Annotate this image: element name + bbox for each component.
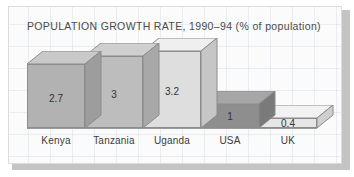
- bar-side-outline: [143, 43, 161, 134]
- bar-side-outline: [201, 38, 219, 134]
- chart-figure: POPULATION GROWTH RATE, 1990–94 (% of po…: [0, 0, 354, 177]
- bar-front-face: 2.7: [27, 64, 85, 128]
- plot-area: 2.7Kenya3Tanzania3.2Uganda1USA0.4UK: [9, 7, 342, 164]
- bar-value-label: 1: [227, 111, 233, 122]
- bar-value-label: 0.4: [281, 118, 295, 129]
- bar-side-outline: [259, 91, 277, 134]
- bar-value-label: 2.7: [49, 93, 63, 104]
- chart-panel: POPULATION GROWTH RATE, 1990–94 (% of po…: [8, 6, 342, 164]
- category-label-tanzania: Tanzania: [85, 135, 143, 146]
- bar-side-outline: [85, 51, 103, 134]
- bar-kenya: 2.7: [27, 51, 101, 128]
- category-label-uganda: Uganda: [143, 135, 201, 146]
- bar-side-outline: [317, 105, 335, 134]
- category-label-usa: USA: [201, 135, 259, 146]
- bar-value-label: 3.2: [165, 86, 179, 97]
- bar-value-label: 3: [111, 89, 117, 100]
- category-label-kenya: Kenya: [27, 135, 85, 146]
- category-label-uk: UK: [259, 135, 317, 146]
